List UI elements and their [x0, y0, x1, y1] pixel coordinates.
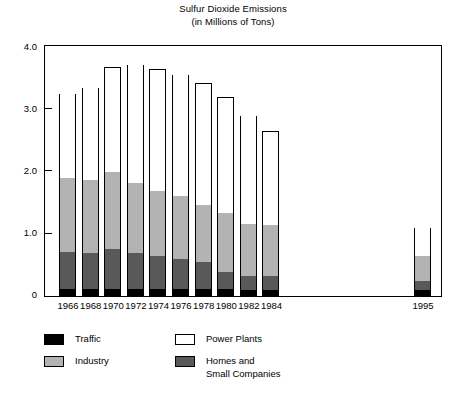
- bar-segment-1966-power-plants: [60, 94, 75, 178]
- bar-segment-1974-industry: [150, 191, 165, 256]
- x-tick-label-1984: 1984: [261, 300, 282, 312]
- bar-segment-1978-homes-and-small-companies: [196, 262, 211, 289]
- chart-title: Sulfur Dioxide Emissions (in Millions of…: [0, 2, 466, 28]
- x-tick-label-1995: 1995: [413, 300, 434, 312]
- x-tick-label-1978: 1978: [193, 300, 214, 312]
- bar-segment-1968-industry: [83, 180, 98, 253]
- bar-segment-1984-power-plants: [263, 132, 278, 225]
- legend-swatch-icon: [175, 356, 195, 367]
- y-tick-label-3.0: 3.0: [24, 104, 37, 114]
- bar-1974: [149, 69, 166, 296]
- bar-segment-1968-traffic: [83, 289, 98, 297]
- bar-1984: [262, 131, 279, 296]
- bar-1978: [195, 83, 212, 296]
- x-tick-label-1968: 1968: [80, 300, 101, 312]
- legend-swatch-icon: [44, 334, 64, 345]
- chart-legend: TrafficIndustryPower PlantsHomes and Sma…: [0, 328, 466, 394]
- legend-swatch-icon: [175, 334, 195, 345]
- bar-segment-1966-homes-and-small-companies: [60, 252, 75, 289]
- legend-label: Traffic: [75, 333, 101, 346]
- bar-segment-1982-traffic: [241, 290, 256, 297]
- bar-segment-1976-industry: [173, 196, 188, 258]
- bar-segment-1995-industry: [415, 256, 430, 281]
- y-tick-label-1.0: 1.0: [24, 228, 37, 238]
- bar-segment-1976-homes-and-small-companies: [173, 259, 188, 289]
- bar-segment-1970-industry: [105, 172, 120, 249]
- bar-segment-1974-homes-and-small-companies: [150, 256, 165, 288]
- bar-1968: [82, 88, 99, 296]
- bar-segment-1972-homes-and-small-companies: [128, 253, 143, 288]
- bar-segment-1970-traffic: [105, 289, 120, 297]
- legend-item-traffic: Traffic: [44, 333, 101, 346]
- bar-segment-1978-industry: [196, 205, 211, 263]
- y-tick-label-0: 0: [32, 290, 37, 300]
- bar-segment-1968-homes-and-small-companies: [83, 253, 98, 288]
- bar-segment-1976-traffic: [173, 289, 188, 296]
- bar-segment-1972-industry: [128, 183, 143, 253]
- bar-segment-1984-industry: [263, 225, 278, 276]
- bar-segment-1966-industry: [60, 178, 75, 251]
- bar-segment-1995-homes-and-small-companies: [415, 281, 430, 290]
- bar-segment-1978-traffic: [196, 289, 211, 296]
- legend-swatch-icon: [44, 356, 64, 367]
- bar-1976: [172, 75, 189, 296]
- bar-segment-1980-power-plants: [218, 98, 233, 214]
- plot-area: [44, 45, 442, 297]
- y-tick-label-2.0: 2.0: [24, 166, 37, 176]
- x-tick-label-1972: 1972: [125, 300, 146, 312]
- bar-1980: [217, 97, 234, 296]
- bar-segment-1970-homes-and-small-companies: [105, 249, 120, 289]
- bar-1972: [127, 65, 144, 296]
- x-tick-label-1982: 1982: [238, 300, 259, 312]
- chart-title-main: Sulfur Dioxide Emissions: [0, 2, 466, 15]
- x-tick-label-1976: 1976: [171, 300, 192, 312]
- bar-segment-1974-power-plants: [150, 70, 165, 191]
- bar-segment-1966-traffic: [60, 289, 75, 297]
- bar-segment-1974-traffic: [150, 289, 165, 297]
- bar-1995: [414, 228, 431, 296]
- bar-segment-1982-industry: [241, 224, 256, 276]
- x-tick-label-1980: 1980: [216, 300, 237, 312]
- legend-label: Industry: [75, 355, 109, 368]
- bar-segment-1995-power-plants: [415, 228, 430, 256]
- bar-segment-1972-traffic: [128, 289, 143, 297]
- bar-segment-1982-power-plants: [241, 116, 256, 224]
- x-tick-label-1966: 1966: [58, 300, 79, 312]
- bar-segment-1984-traffic: [263, 290, 278, 297]
- x-tick-label-1974: 1974: [148, 300, 169, 312]
- x-tick-label-1970: 1970: [103, 300, 124, 312]
- y-tick-label-4.0: 4.0: [24, 42, 37, 52]
- bar-segment-1980-traffic: [218, 289, 233, 296]
- legend-item-industry: Industry: [44, 355, 109, 368]
- bar-segment-1970-power-plants: [105, 68, 120, 172]
- bar-segment-1976-power-plants: [173, 75, 188, 196]
- plot-canvas: [45, 46, 441, 296]
- y-tick-mark-1.0: [45, 233, 52, 234]
- bar-1970: [104, 67, 121, 296]
- legend-label: Power Plants: [206, 333, 262, 346]
- bar-segment-1980-homes-and-small-companies: [218, 272, 233, 289]
- bar-segment-1980-industry: [218, 213, 233, 272]
- bar-segment-1972-power-plants: [128, 65, 143, 183]
- bar-1982: [240, 116, 257, 296]
- bar-segment-1984-homes-and-small-companies: [263, 276, 278, 290]
- bar-segment-1968-power-plants: [83, 88, 98, 179]
- y-tick-mark-2.0: [45, 170, 52, 171]
- bar-segment-1995-traffic: [415, 290, 430, 296]
- legend-item-power-plants: Power Plants: [175, 333, 262, 346]
- legend-item-homes-and: Homes and Small Companies: [175, 355, 280, 380]
- x-axis: 1966196819701972197419761978198019821984…: [0, 300, 466, 316]
- legend-label: Homes and Small Companies: [206, 355, 280, 380]
- chart-subtitle: (in Millions of Tons): [0, 15, 466, 28]
- bar-segment-1982-homes-and-small-companies: [241, 276, 256, 290]
- y-tick-mark-3.0: [45, 108, 52, 109]
- bar-segment-1978-power-plants: [196, 84, 211, 205]
- bar-1966: [59, 94, 76, 296]
